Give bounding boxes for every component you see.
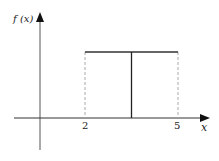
- uniform-density-diagram: f (x) x 2 5: [0, 0, 219, 161]
- tick-label-2: 2: [82, 120, 88, 131]
- y-axis-label: f (x): [12, 13, 33, 24]
- tick-label-5: 5: [174, 120, 180, 131]
- y-axis-arrow-icon: [36, 12, 44, 22]
- x-axis-label: x: [201, 121, 208, 134]
